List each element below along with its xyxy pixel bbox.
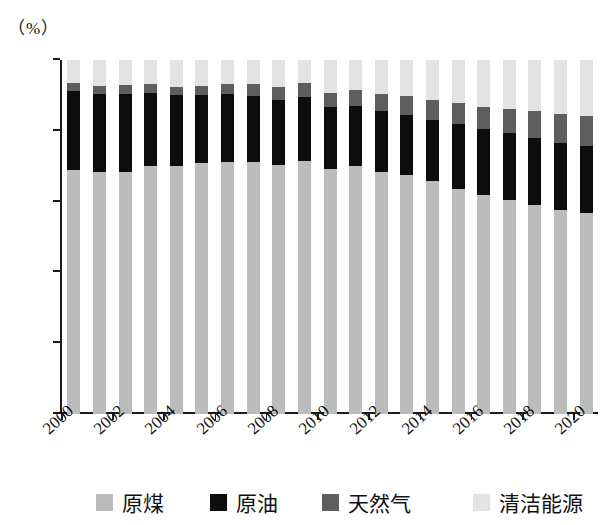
plot-area — [60, 60, 598, 414]
bar-segment-2012-天然气 — [375, 94, 388, 111]
legend-item-oil: 原油 — [210, 487, 278, 517]
chart-legend: 原煤原油天然气清洁能源 — [96, 487, 583, 517]
legend-item-coal: 原煤 — [96, 487, 164, 517]
bar-segment-2020-原油 — [580, 146, 593, 213]
y-tick-80 — [53, 129, 60, 131]
y-tick-60 — [53, 200, 60, 202]
bar-segment-2004-清洁能源 — [170, 60, 183, 87]
bar-2009 — [298, 60, 311, 414]
bar-2003 — [144, 60, 157, 414]
bar-segment-2015-原煤 — [452, 189, 465, 414]
bar-segment-2012-原煤 — [375, 172, 388, 414]
stacked-bar-chart: （%） 020406080100 20002002200420062008201… — [0, 0, 611, 525]
bar-segment-2019-天然气 — [554, 114, 567, 143]
bar-segment-2006-清洁能源 — [221, 60, 234, 84]
bar-2006 — [221, 60, 234, 414]
bar-segment-2018-清洁能源 — [528, 60, 541, 111]
bar-segment-2008-清洁能源 — [272, 60, 285, 87]
legend-swatch-oil — [210, 494, 227, 511]
bar-segment-2016-原煤 — [477, 195, 490, 414]
bar-segment-2008-天然气 — [272, 87, 285, 100]
bar-segment-2001-原油 — [93, 94, 106, 171]
bar-segment-2008-原煤 — [272, 165, 285, 414]
bar-segment-2010-清洁能源 — [324, 60, 337, 93]
bar-segment-2010-天然气 — [324, 93, 337, 107]
bar-segment-2000-天然气 — [67, 83, 80, 91]
legend-swatch-gas — [322, 494, 339, 511]
bar-segment-2004-天然气 — [170, 87, 183, 96]
bar-segment-2017-清洁能源 — [503, 60, 516, 109]
bar-segment-2011-原油 — [349, 106, 362, 165]
bar-segment-2020-原煤 — [580, 213, 593, 414]
y-tick-40 — [53, 270, 60, 272]
bar-segment-2014-天然气 — [426, 100, 439, 120]
bar-segment-2016-原油 — [477, 129, 490, 194]
bar-segment-2005-天然气 — [195, 86, 208, 95]
y-tick-100 — [53, 58, 60, 60]
bar-segment-2001-清洁能源 — [93, 60, 106, 86]
bar-segment-2013-清洁能源 — [400, 60, 413, 96]
bar-segment-2007-清洁能源 — [247, 60, 260, 84]
bar-segment-2019-原油 — [554, 143, 567, 210]
bar-segment-2019-原煤 — [554, 210, 567, 414]
bar-segment-2014-原油 — [426, 120, 439, 181]
bar-2018 — [528, 60, 541, 414]
bar-segment-2016-天然气 — [477, 107, 490, 129]
bar-segment-2006-天然气 — [221, 84, 234, 94]
bar-segment-2006-原煤 — [221, 162, 234, 414]
bar-segment-2009-清洁能源 — [298, 60, 311, 83]
bar-segment-2011-原煤 — [349, 166, 362, 415]
legend-swatch-coal — [96, 494, 113, 511]
bar-segment-2020-天然气 — [580, 116, 593, 146]
bar-2013 — [400, 60, 413, 414]
bar-segment-2007-原煤 — [247, 162, 260, 414]
bar-segment-2001-天然气 — [93, 86, 106, 94]
bar-segment-2018-原油 — [528, 138, 541, 205]
bar-segment-2010-原煤 — [324, 169, 337, 414]
legend-label-gas: 天然气 — [348, 487, 411, 517]
bar-segment-2005-原煤 — [195, 163, 208, 414]
bar-2004 — [170, 60, 183, 414]
bar-segment-2013-原油 — [400, 115, 413, 176]
bar-segment-2018-原煤 — [528, 205, 541, 414]
bar-segment-2003-原油 — [144, 93, 157, 166]
y-axis-line — [60, 60, 62, 414]
bar-segment-2004-原煤 — [170, 166, 183, 415]
bar-segment-2009-天然气 — [298, 83, 311, 97]
bar-segment-2017-原油 — [503, 133, 516, 200]
bar-segment-2016-清洁能源 — [477, 60, 490, 107]
bar-segment-2011-天然气 — [349, 90, 362, 106]
bar-segment-2017-原煤 — [503, 200, 516, 414]
bar-segment-2002-天然气 — [119, 85, 132, 93]
bar-segment-2003-清洁能源 — [144, 60, 157, 84]
bar-segment-2010-原油 — [324, 107, 337, 169]
bar-segment-2001-原煤 — [93, 172, 106, 414]
bar-segment-2008-原油 — [272, 100, 285, 165]
legend-swatch-clean — [473, 494, 490, 511]
bar-segment-2000-清洁能源 — [67, 60, 80, 83]
bar-segment-2009-原煤 — [298, 161, 311, 414]
bar-2001 — [93, 60, 106, 414]
bar-segment-2007-天然气 — [247, 84, 260, 96]
bar-segment-2020-清洁能源 — [580, 60, 593, 116]
bar-segment-2013-天然气 — [400, 96, 413, 115]
bar-2019 — [554, 60, 567, 414]
bar-2008 — [272, 60, 285, 414]
bar-segment-2002-原煤 — [119, 172, 132, 414]
bar-2016 — [477, 60, 490, 414]
bar-segment-2006-原油 — [221, 94, 234, 162]
legend-item-gas: 天然气 — [322, 487, 411, 517]
legend-label-coal: 原煤 — [122, 487, 164, 517]
bar-segment-2018-天然气 — [528, 111, 541, 138]
bar-segment-2003-天然气 — [144, 84, 157, 93]
bar-segment-2015-原油 — [452, 124, 465, 189]
bar-2010 — [324, 60, 337, 414]
bar-segment-2005-原油 — [195, 95, 208, 164]
bar-2011 — [349, 60, 362, 414]
bar-segment-2014-原煤 — [426, 181, 439, 414]
bar-segment-2007-原油 — [247, 96, 260, 163]
bar-segment-2009-原油 — [298, 97, 311, 160]
bar-2000 — [67, 60, 80, 414]
bar-segment-2015-清洁能源 — [452, 60, 465, 103]
bar-segment-2004-原油 — [170, 95, 183, 165]
